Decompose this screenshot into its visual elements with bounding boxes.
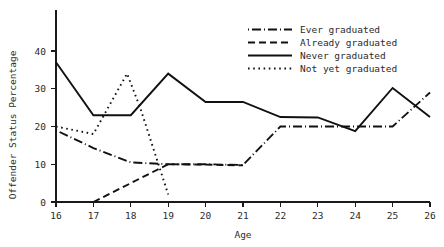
x-tick-label-18: 18	[125, 210, 137, 221]
legend-item-not-yet-graduated: Not yet graduated	[248, 63, 397, 74]
x-tick-label-23: 23	[312, 210, 323, 221]
x-tick-label-21: 21	[237, 210, 249, 221]
legend-label-ever-graduated: Ever graduated	[300, 24, 380, 35]
legend-label-never-graduated: Never graduated	[300, 50, 386, 61]
y-tick-label-30: 30	[35, 83, 47, 94]
y-axis-tick-labels: 0 10 20 30 40	[35, 46, 47, 208]
x-axis-ticks	[56, 202, 430, 207]
series-ever-graduated	[56, 93, 430, 165]
y-tick-label-40: 40	[35, 46, 47, 57]
x-tick-label-26: 26	[424, 210, 436, 221]
x-tick-label-16: 16	[50, 210, 62, 221]
series-already-graduated	[93, 164, 243, 202]
chart-canvas: Offender Status Percentage 0 10 20 30 40	[0, 0, 444, 247]
legend-item-ever-graduated: Ever graduated	[248, 24, 380, 35]
y-axis-ticks	[51, 51, 56, 202]
line-chart-figure: Offender Status Percentage 0 10 20 30 40	[0, 0, 444, 247]
y-axis-title: Offender Status Percentage	[7, 50, 18, 199]
x-tick-label-24: 24	[349, 210, 361, 221]
chart-legend: Ever graduated Already graduated Never g…	[248, 24, 397, 74]
x-tick-label-17: 17	[88, 210, 99, 221]
legend-label-already-graduated: Already graduated	[300, 37, 397, 48]
x-tick-label-19: 19	[162, 210, 174, 221]
x-tick-label-20: 20	[200, 210, 212, 221]
y-tick-label-10: 10	[35, 159, 47, 170]
legend-label-not-yet-graduated: Not yet graduated	[300, 63, 397, 74]
legend-item-never-graduated: Never graduated	[248, 50, 386, 61]
x-axis-tick-labels: 16 17 18 19 20 21 22 23 24 25 26	[50, 210, 436, 221]
legend-item-already-graduated: Already graduated	[248, 37, 397, 48]
x-tick-label-22: 22	[275, 210, 286, 221]
x-axis-title: Age	[234, 229, 251, 240]
x-tick-label-25: 25	[387, 210, 398, 221]
series-group	[56, 62, 430, 202]
y-tick-label-20: 20	[35, 121, 47, 132]
y-tick-label-0: 0	[40, 197, 46, 208]
